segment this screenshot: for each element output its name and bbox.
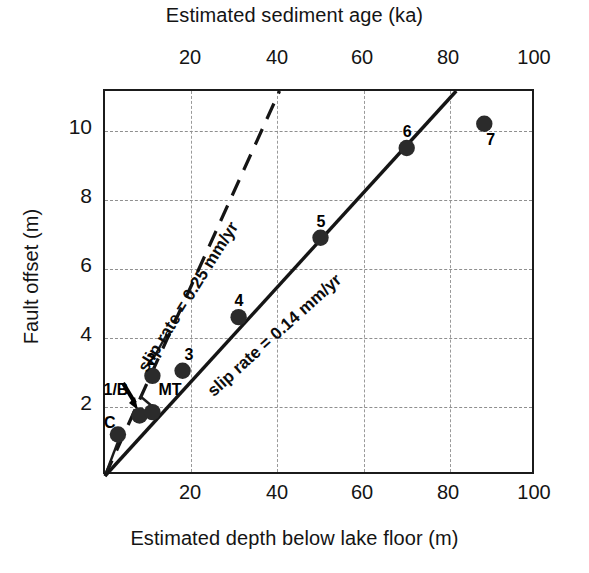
data-point-label-2: 2 <box>146 352 155 368</box>
y-tick-label-10: 10 <box>52 115 92 139</box>
data-point-3 <box>174 362 190 378</box>
data-point-label-5: 5 <box>317 214 326 230</box>
y-axis-title: Fault offset (m) <box>20 162 43 392</box>
y-tick-label-6: 6 <box>52 253 92 277</box>
data-point-label-7: 7 <box>486 132 495 148</box>
data-point-label-6: 6 <box>403 124 412 140</box>
data-point-label-4: 4 <box>235 293 244 309</box>
top-tick-label-20: 20 <box>162 46 218 69</box>
data-point-4 <box>230 309 246 325</box>
data-point-5 <box>312 230 328 246</box>
top-axis-title: Estimated sediment age (ka) <box>0 4 589 27</box>
plot-area: slip rate = 0.25 mm/yr slip rate = 0.14 … <box>103 89 534 474</box>
scatter-chart-figure: Estimated sediment age (ka) Estimated de… <box>0 0 589 573</box>
x-tick-label-100: 100 <box>506 481 562 504</box>
y-tick-label-8: 8 <box>52 184 92 208</box>
data-point-label-3: 3 <box>185 347 194 363</box>
data-point-label-mt: MT <box>158 382 181 398</box>
data-point-mt <box>144 404 160 420</box>
x-tick-label-80: 80 <box>420 481 476 504</box>
x-tick-label-20: 20 <box>162 481 218 504</box>
x-tick-label-40: 40 <box>249 481 305 504</box>
y-tick-label-4: 4 <box>52 322 92 346</box>
top-tick-label-100: 100 <box>506 46 562 69</box>
x-axis-title: Estimated depth below lake floor (m) <box>0 527 589 550</box>
top-tick-label-40: 40 <box>249 46 305 69</box>
y-tick-label-2: 2 <box>52 391 92 415</box>
top-tick-label-80: 80 <box>420 46 476 69</box>
top-tick-label-60: 60 <box>334 46 390 69</box>
data-point-6 <box>399 140 415 156</box>
data-point-label-1-b: 1/B <box>103 382 128 398</box>
data-point-label-c: C <box>104 415 116 431</box>
x-tick-label-60: 60 <box>334 481 390 504</box>
data-point-7 <box>476 116 492 132</box>
